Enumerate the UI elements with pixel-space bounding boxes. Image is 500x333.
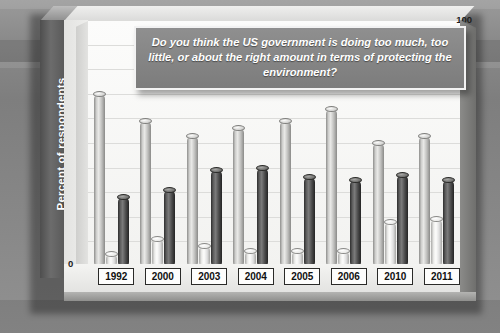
bar-cap xyxy=(117,194,130,200)
chart-title-text: Do you think the US government is doing … xyxy=(146,35,454,80)
bar-cap xyxy=(198,243,211,249)
bar xyxy=(419,136,430,266)
x-axis-year-label: 2005 xyxy=(284,268,320,285)
bar xyxy=(385,222,396,266)
y-axis-title-panel: Percent of respondents xyxy=(40,20,64,278)
bar xyxy=(431,219,442,266)
bar-cap xyxy=(372,140,385,146)
bar-cap xyxy=(256,165,269,171)
x-axis-year-label: 2003 xyxy=(191,268,227,285)
bar-cap xyxy=(105,251,118,257)
bar xyxy=(326,109,337,266)
bar xyxy=(257,168,268,266)
bar-group xyxy=(88,20,135,266)
x-axis-year-label: 2004 xyxy=(238,268,274,285)
bar-cap xyxy=(186,133,199,139)
bar-cap xyxy=(303,174,316,180)
bar xyxy=(187,136,198,266)
bar-chart: Percent of respondents 10090807060504030… xyxy=(22,6,474,298)
x-axis-category-labels: 19922000200320042005200620102011 xyxy=(88,268,468,290)
chart-title-box: Do you think the US government is doing … xyxy=(134,26,466,90)
bar xyxy=(443,180,454,266)
x-axis-year-label: 2000 xyxy=(145,268,181,285)
bar-cap xyxy=(384,219,397,225)
bar xyxy=(397,175,408,266)
bar-cap xyxy=(210,167,223,173)
bar xyxy=(373,143,384,266)
bar xyxy=(164,190,175,266)
chart-screenshot: Percent of respondents 10090807060504030… xyxy=(0,0,500,333)
bar-cap xyxy=(244,248,257,254)
bar-cap xyxy=(430,216,443,222)
bar-cap xyxy=(93,91,106,97)
x-axis-year-label: 2006 xyxy=(331,268,367,285)
bar xyxy=(118,197,129,266)
bar-cap xyxy=(139,118,152,124)
x-axis-year-label: 2010 xyxy=(377,268,413,285)
bar-cap xyxy=(151,236,164,242)
chart-floor-front-edge xyxy=(64,292,476,301)
bar-cap xyxy=(291,248,304,254)
bar xyxy=(140,121,151,266)
y-axis-zero-label: 0 xyxy=(68,258,73,269)
x-axis-year-label: 1992 xyxy=(98,268,134,285)
bar-cap xyxy=(232,125,245,131)
bar-cap xyxy=(163,187,176,193)
bar xyxy=(350,180,361,266)
bar xyxy=(233,128,244,266)
x-axis-year-label: 2011 xyxy=(424,268,460,285)
bar-cap xyxy=(279,118,292,124)
bar xyxy=(94,94,105,266)
bar-cap xyxy=(396,172,409,178)
bar-cap xyxy=(418,133,431,139)
bar xyxy=(152,239,163,266)
bar-cap xyxy=(325,106,338,112)
bar xyxy=(304,177,315,266)
bar xyxy=(280,121,291,266)
bar xyxy=(211,170,222,266)
bar-cap xyxy=(349,177,362,183)
bar-cap xyxy=(337,248,350,254)
bar-cap xyxy=(442,177,455,183)
